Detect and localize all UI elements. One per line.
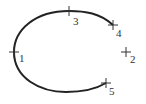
point-4-label: 4 xyxy=(116,27,122,39)
point-1-label: 1 xyxy=(19,52,25,64)
point-2-label: 2 xyxy=(130,53,136,65)
point-1-marker xyxy=(9,47,19,57)
point-5-label: 5 xyxy=(109,85,115,97)
point-3-label: 3 xyxy=(73,15,79,27)
diagram-canvas: 1 2 3 4 5 xyxy=(0,0,146,104)
arc-curve xyxy=(14,11,113,92)
